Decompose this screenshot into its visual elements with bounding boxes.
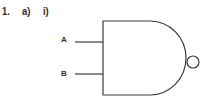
inversion-bubble: [187, 56, 199, 68]
and-gate-body: [103, 21, 186, 95]
nand-gate-diagram: [0, 0, 201, 108]
